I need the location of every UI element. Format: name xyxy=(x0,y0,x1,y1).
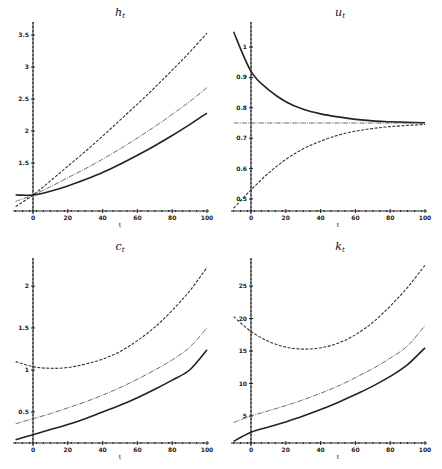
chart-title-subscript: t xyxy=(342,12,345,20)
y-tick-label: 0.5 xyxy=(236,195,247,202)
y-tick-label: 1 xyxy=(243,43,247,50)
x-tick-label: 60 xyxy=(133,214,141,221)
y-tick-label: 20 xyxy=(239,315,247,322)
panel-u-t: ut0204060801000.50.60.70.80.91t xyxy=(231,6,431,228)
panel-k-t: kt020406080100510152025t xyxy=(231,240,431,460)
x-tick-label: 40 xyxy=(316,446,324,453)
series-line-solid xyxy=(234,32,425,123)
chart-title-main: u xyxy=(335,6,342,19)
x-tick-label: 100 xyxy=(201,446,214,453)
y-tick-label: 3.5 xyxy=(18,31,29,38)
panel-c-t: ct0204060801000.511.52t xyxy=(13,240,213,460)
y-tick-label: 0.5 xyxy=(18,408,29,415)
chart-title: ct xyxy=(116,240,125,254)
chart-title-subscript: t xyxy=(342,246,345,254)
y-tick-label: 1.5 xyxy=(18,324,29,331)
y-tick-label: 0.6 xyxy=(236,165,247,172)
y-tick-label: 3 xyxy=(25,63,29,70)
x-tick-label: 20 xyxy=(64,446,72,453)
figure-canvas: ht0204060801001.522.533.5t ut02040608010… xyxy=(0,0,442,469)
x-tick-label: 100 xyxy=(419,214,432,221)
x-tick-label: 100 xyxy=(419,446,432,453)
series-line-solid xyxy=(16,350,207,440)
x-tick-label: 0 xyxy=(249,446,253,453)
y-tick-label: 15 xyxy=(239,347,247,354)
x-tick-label: 80 xyxy=(168,214,176,221)
x-tick-label: 20 xyxy=(282,446,290,453)
x-tick-label: 0 xyxy=(31,214,35,221)
series-line-dash-dot xyxy=(16,88,207,202)
panel-h-t: ht0204060801001.522.533.5t xyxy=(13,6,213,228)
y-tick-label: 0.7 xyxy=(236,134,247,141)
y-tick-label: 1.5 xyxy=(18,159,29,166)
x-tick-label: 40 xyxy=(316,214,324,221)
chart-title: ut xyxy=(335,6,345,20)
y-tick-label: 10 xyxy=(239,380,247,387)
x-tick-label: 0 xyxy=(249,214,253,221)
x-axis-label: t xyxy=(119,453,122,460)
chart-title: kt xyxy=(335,240,345,254)
x-tick-label: 80 xyxy=(386,446,394,453)
series-line-dashed xyxy=(16,268,207,369)
x-tick-label: 80 xyxy=(168,446,176,453)
x-axis-label: t xyxy=(119,221,122,228)
series-line-solid xyxy=(16,113,207,195)
x-tick-label: 80 xyxy=(386,214,394,221)
x-tick-label: 40 xyxy=(98,214,106,221)
x-tick-label: 100 xyxy=(201,214,214,221)
series-line-dashed xyxy=(234,265,425,349)
y-tick-label: 2 xyxy=(25,282,29,289)
x-tick-label: 20 xyxy=(282,214,290,221)
y-tick-label: 2.5 xyxy=(18,95,29,102)
x-tick-label: 60 xyxy=(133,446,141,453)
y-tick-label: 0.8 xyxy=(236,104,247,111)
series-line-dash-dot xyxy=(234,326,425,423)
series-line-solid xyxy=(234,348,425,442)
x-tick-label: 0 xyxy=(31,446,35,453)
y-tick-label: 0.9 xyxy=(236,73,247,80)
x-axis-label: t xyxy=(337,221,340,228)
x-tick-label: 60 xyxy=(351,446,359,453)
chart-title-subscript: t xyxy=(122,246,125,254)
x-tick-label: 40 xyxy=(98,446,106,453)
y-tick-label: 2 xyxy=(25,127,29,134)
x-axis-label: t xyxy=(337,453,340,460)
y-tick-label: 25 xyxy=(239,282,247,289)
chart-title: ht xyxy=(115,6,125,20)
x-tick-label: 60 xyxy=(351,214,359,221)
chart-title-subscript: t xyxy=(122,12,125,20)
chart-title-main: h xyxy=(115,6,122,19)
series-line-dashed xyxy=(16,33,207,206)
x-tick-label: 20 xyxy=(64,214,72,221)
series-line-dashed xyxy=(234,125,425,209)
y-tick-label: 1 xyxy=(25,366,29,373)
